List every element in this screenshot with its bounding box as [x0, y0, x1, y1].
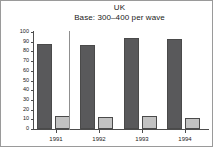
x-tick-label-1993: 1993 — [135, 135, 148, 143]
y-tick: 20 — [1, 110, 34, 111]
y-tick: 0 — [1, 129, 34, 130]
x-axis-line — [33, 129, 209, 130]
y-tick-label: 100 — [20, 28, 29, 35]
x-tick-mark — [56, 130, 57, 133]
y-tick: 30 — [1, 100, 34, 101]
bar-dark-1994 — [167, 39, 182, 129]
chart-figure: UK Base: 300–400 per wave 10090807060504… — [0, 0, 213, 147]
y-tick-label: 0 — [26, 125, 29, 132]
y-tick: 70 — [1, 61, 34, 62]
y-tick: 40 — [1, 90, 34, 91]
y-tick-label: 70 — [23, 57, 29, 64]
bar-dark-1991 — [37, 44, 52, 129]
y-tick-mark — [31, 129, 34, 130]
chart-subtitle: Base: 300–400 per wave — [25, 13, 213, 23]
y-tick: 100 — [1, 32, 34, 33]
y-tick-label: 20 — [23, 106, 29, 113]
x-tick-mark — [99, 130, 100, 133]
plot-area — [34, 32, 207, 129]
y-tick-label: 10 — [23, 115, 29, 122]
bar-light-1994 — [185, 118, 200, 129]
y-tick: 80 — [1, 51, 34, 52]
x-tick-mark — [142, 130, 143, 133]
bar-dark-1992 — [80, 45, 95, 129]
bar-light-1992 — [98, 117, 113, 129]
y-tick: 10 — [1, 119, 34, 120]
y-tick-label: 90 — [23, 38, 29, 45]
y-tick: 60 — [1, 71, 34, 72]
x-tick-label-1991: 1991 — [49, 135, 62, 143]
y-tick-label: 30 — [23, 96, 29, 103]
x-tick-label-1992: 1992 — [92, 135, 105, 143]
y-tick: 50 — [1, 81, 34, 82]
bar-light-1991 — [55, 116, 70, 129]
x-tick-label-1994: 1994 — [178, 135, 191, 143]
y-tick: 90 — [1, 42, 34, 43]
group-divider — [69, 31, 70, 130]
y-tick-label: 50 — [23, 77, 29, 84]
y-tick-label: 40 — [23, 86, 29, 93]
chart-title: UK — [25, 3, 213, 13]
title-block: UK Base: 300–400 per wave — [1, 3, 213, 23]
y-tick-label: 60 — [23, 67, 29, 74]
bar-dark-1993 — [124, 38, 139, 129]
bar-light-1993 — [142, 116, 157, 129]
x-tick-mark — [185, 130, 186, 133]
y-tick-label: 80 — [23, 47, 29, 54]
